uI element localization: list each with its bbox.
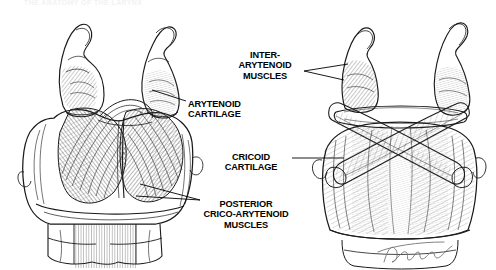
right-larynx-drawing [312, 23, 486, 269]
arytenoid-cartilage-left [59, 24, 104, 117]
arytenoid-cartilage-right-view-right [434, 23, 470, 115]
arytenoid-cartilage-right [142, 27, 179, 118]
leader-inter-arytenoid-lower [304, 71, 344, 80]
left-larynx-drawing [18, 24, 203, 268]
leader-inter-arytenoid-upper [304, 64, 348, 71]
illustration-page: THE ANATOMY OF THE LARYNX [0, 0, 496, 270]
cricoid-lamina-left-view [18, 98, 203, 224]
label-cricoid-cartilage: CRICOID CARTILAGE [212, 152, 290, 173]
arytenoid-cartilage-right-view-left [342, 28, 378, 113]
label-posterior-crico-arytenoid-muscles: POSTERIOR CRICO-ARYTENOID MUSCLES [186, 199, 306, 230]
label-arytenoid-cartilage: ARYTENOID CARTILAGE [188, 99, 274, 120]
cricoid-cartilage-right-view [312, 120, 486, 245]
label-inter-arytenoid-muscles: INTER- ARYTENOID MUSCLES [228, 50, 302, 81]
trachea-rings-left-view [48, 224, 162, 268]
